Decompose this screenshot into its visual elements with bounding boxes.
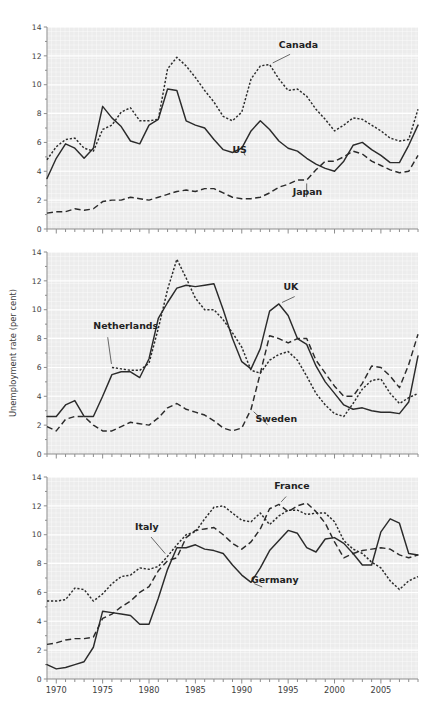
panel-background-3 [47, 477, 418, 679]
y-tick-label-14: 14 [32, 23, 42, 32]
series-label-japan: Japan [292, 186, 323, 197]
x-tick-label-1990: 1990 [231, 685, 252, 695]
y-tick-label-12: 12 [32, 52, 42, 61]
series-label-italy: Italy [135, 521, 159, 532]
x-tick-label-1970: 1970 [46, 685, 67, 695]
x-tick-label-1980: 1980 [139, 685, 160, 695]
series-label-canada: Canada [279, 39, 318, 50]
y-tick-label-4: 4 [37, 617, 42, 626]
y-tick-label-0: 0 [37, 675, 42, 684]
series-label-germany: Germany [251, 574, 299, 585]
y-tick-label-6: 6 [37, 363, 42, 372]
series-label-sweden: Sweden [256, 413, 298, 424]
y-tick-label-8: 8 [37, 559, 42, 568]
panel-background-2 [47, 252, 418, 454]
y-tick-label-0: 0 [37, 450, 42, 459]
series-label-uk: UK [283, 281, 299, 292]
x-tick-label-1995: 1995 [278, 685, 299, 695]
x-tick-label-1985: 1985 [185, 685, 206, 695]
x-tick-label-2000: 2000 [324, 685, 345, 695]
y-tick-label-2: 2 [37, 646, 42, 655]
y-tick-label-0: 0 [37, 225, 42, 234]
panel-background-1 [47, 27, 418, 229]
y-tick-label-10: 10 [32, 80, 42, 89]
y-tick-label-4: 4 [37, 167, 42, 176]
y-tick-label-6: 6 [37, 138, 42, 147]
series-label-us: US [232, 144, 247, 155]
x-tick-label-1975: 1975 [92, 685, 113, 695]
y-tick-label-12: 12 [32, 502, 42, 511]
y-tick-label-6: 6 [37, 588, 42, 597]
x-tick-label-2005: 2005 [370, 685, 391, 695]
y-tick-label-14: 14 [32, 248, 42, 257]
panel-1: 02468101214CanadaUSJapan [32, 23, 418, 234]
y-tick-label-12: 12 [32, 277, 42, 286]
y-tick-label-2: 2 [37, 196, 42, 205]
panel-2: 02468101214UKNetherlandsSweden [32, 248, 418, 459]
y-tick-label-4: 4 [37, 392, 42, 401]
series-label-netherlands: Netherlands [93, 320, 158, 331]
y-tick-label-2: 2 [37, 421, 42, 430]
y-tick-label-14: 14 [32, 473, 42, 482]
unemployment-rate-figure: 02468101214CanadaUSJapan02468101214UKNet… [0, 0, 441, 727]
panel-3: 0246810121419701975198019851990199520002… [32, 473, 418, 695]
series-label-france: France [274, 480, 309, 491]
y-tick-label-10: 10 [32, 530, 42, 539]
figure-svg: 02468101214CanadaUSJapan02468101214UKNet… [0, 0, 441, 727]
y-tick-label-8: 8 [37, 334, 42, 343]
y-tick-label-8: 8 [37, 109, 42, 118]
y-tick-label-10: 10 [32, 305, 42, 314]
y-axis-title: Unemployment rate (per cent) [8, 289, 18, 417]
